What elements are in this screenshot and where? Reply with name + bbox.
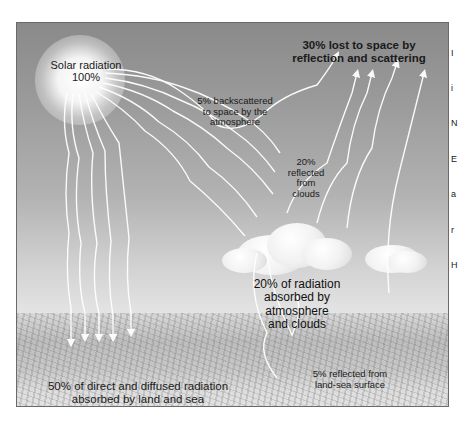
lost-to-space-label: 30% lost to space by reflection and scat… (279, 39, 439, 65)
surface-reflected-label: 5% reflected from land-sea surface (300, 369, 400, 390)
clouds-reflected-label: 20% reflected from clouds (281, 157, 331, 200)
absorbed-land-label: 50% of direct and diffused radiation abs… (33, 380, 243, 406)
solar-radiation-label: Solar radiation 100% (45, 59, 127, 84)
energy-budget-diagram: Solar radiation 100% 30% lost to space b… (16, 22, 449, 407)
absorbed-atmosphere-label: 20% of radiation absorbed by atmosphere … (237, 278, 357, 332)
backscattered-label: 5% backscattered to space by the atmosph… (185, 96, 285, 128)
cut-off-side-text: I i N E a r H (451, 24, 465, 284)
